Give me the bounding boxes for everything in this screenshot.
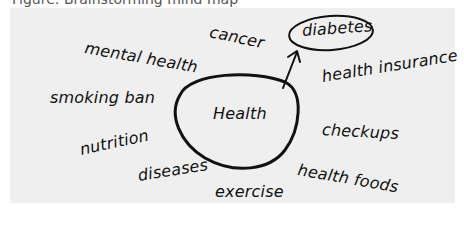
central-node-health: Health	[213, 104, 267, 123]
node-checkups: checkups	[322, 120, 400, 143]
node-exercise: exercise	[215, 182, 284, 201]
arrow-icon	[283, 51, 300, 88]
node-smoking-ban: smoking ban	[50, 88, 155, 107]
